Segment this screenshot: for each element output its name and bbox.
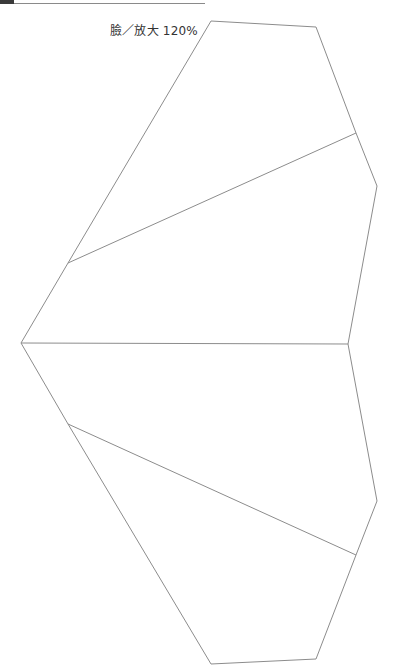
pattern-inner-lines (21, 133, 356, 555)
pattern-outline (21, 21, 377, 664)
fold-line-3 (68, 424, 356, 555)
fold-line-1 (68, 133, 356, 263)
face-pattern-diagram (0, 0, 396, 671)
fold-line-2 (21, 343, 348, 344)
